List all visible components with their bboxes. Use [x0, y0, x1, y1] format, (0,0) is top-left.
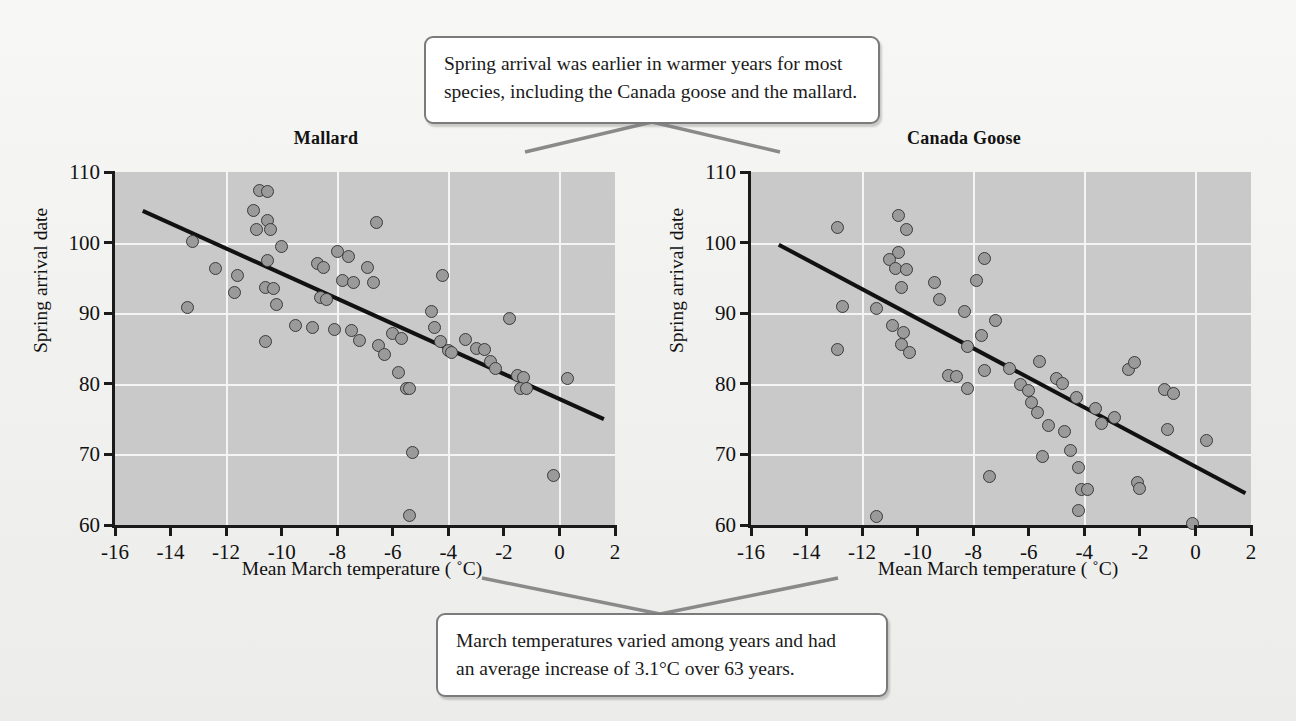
data-point — [445, 346, 458, 359]
data-point — [186, 235, 199, 248]
y-axis-tick — [740, 171, 751, 174]
data-point — [900, 263, 913, 276]
data-point — [353, 334, 366, 347]
data-point — [1042, 419, 1055, 432]
y-axis-title-mallard: Spring arrival date — [30, 208, 52, 353]
x-axis-tick-label: 2 — [610, 540, 621, 565]
callout-bottom: March temperatures varied among years an… — [436, 613, 888, 697]
data-point — [395, 332, 408, 345]
data-point — [1072, 461, 1085, 474]
trendline — [751, 172, 1251, 525]
data-point — [428, 321, 441, 334]
data-point — [478, 343, 491, 356]
x-axis-tick — [558, 525, 561, 536]
y-axis-tick — [740, 312, 751, 315]
data-point — [347, 276, 360, 289]
data-point — [520, 382, 533, 395]
data-point — [1022, 384, 1035, 397]
data-point — [342, 250, 355, 263]
data-point — [406, 446, 419, 459]
data-point — [978, 364, 991, 377]
data-point — [831, 343, 844, 356]
data-point — [978, 252, 991, 265]
x-axis-tick — [805, 525, 808, 536]
data-point — [250, 223, 263, 236]
x-axis-tick — [614, 525, 617, 536]
x-axis-tick — [861, 525, 864, 536]
data-point — [950, 370, 963, 383]
x-axis-tick-label: -6 — [384, 540, 402, 565]
data-point — [267, 282, 280, 295]
chart-title-mallard: Mallard — [76, 128, 576, 149]
x-axis-tick — [391, 525, 394, 536]
x-axis-tick-label: -8 — [964, 540, 982, 565]
data-point — [259, 335, 272, 348]
x-axis-tick — [225, 525, 228, 536]
data-point — [320, 293, 333, 306]
x-axis-tick-label: -10 — [268, 540, 296, 565]
x-axis-title-canada-goose: Mean March temperature ( ˚C) — [748, 558, 1248, 580]
data-point — [900, 223, 913, 236]
x-axis-tick — [750, 525, 753, 536]
data-point — [903, 346, 916, 359]
x-axis-tick-label: -10 — [904, 540, 932, 565]
callout-top-line2: species, including the Canada goose and … — [444, 78, 862, 106]
x-axis-tick-label: -14 — [157, 540, 185, 565]
x-axis-tick — [336, 525, 339, 536]
x-axis-tick-label: -16 — [101, 540, 129, 565]
x-axis-tick-label: 2 — [1246, 540, 1257, 565]
y-axis-tick-label: 90 — [715, 301, 736, 326]
x-axis-tick — [1138, 525, 1141, 536]
y-axis-tick — [104, 312, 115, 315]
callout-bottom-line2: an average increase of 3.1°C over 63 yea… — [456, 655, 870, 683]
data-point — [831, 221, 844, 234]
data-point — [270, 298, 283, 311]
data-point — [1167, 387, 1180, 400]
data-point — [933, 293, 946, 306]
data-point — [1128, 356, 1141, 369]
data-point — [1072, 504, 1085, 517]
x-axis-tick-label: 0 — [554, 540, 565, 565]
chart-title-canada-goose: Canada Goose — [714, 128, 1214, 149]
callout-bottom-line1: March temperatures varied among years an… — [456, 627, 870, 655]
y-axis-tick-label: 60 — [715, 513, 736, 538]
data-point — [989, 314, 1002, 327]
x-axis-tick — [447, 525, 450, 536]
x-axis-tick-label: -12 — [212, 540, 240, 565]
y-axis-tick — [104, 382, 115, 385]
data-point — [392, 366, 405, 379]
y-axis-tick — [104, 171, 115, 174]
data-point — [561, 372, 574, 385]
data-point — [1070, 391, 1083, 404]
data-point — [231, 269, 244, 282]
x-axis-tick-label: -4 — [440, 540, 458, 565]
data-point — [403, 382, 416, 395]
x-axis-tick-label: -12 — [848, 540, 876, 565]
data-point — [317, 261, 330, 274]
y-axis-tick-label: 110 — [705, 160, 736, 185]
x-axis-tick — [114, 525, 117, 536]
data-point — [870, 302, 883, 315]
y-axis-tick — [740, 382, 751, 385]
data-point — [1064, 444, 1077, 457]
plot-area-mallard: 60708090100110-16-14-12-10-8-6-4-202 — [112, 172, 615, 528]
x-axis-tick-label: 0 — [1190, 540, 1201, 565]
data-point — [328, 323, 341, 336]
data-point — [892, 209, 905, 222]
x-axis-tick — [972, 525, 975, 536]
y-axis-tick-label: 100 — [705, 230, 737, 255]
data-point — [436, 269, 449, 282]
data-point — [370, 216, 383, 229]
data-point — [289, 319, 302, 332]
y-axis-tick-label: 70 — [715, 442, 736, 467]
x-axis-tick — [916, 525, 919, 536]
figure-page: Spring arrival was earlier in warmer yea… — [0, 0, 1296, 721]
y-axis-tick — [104, 453, 115, 456]
data-point — [895, 281, 908, 294]
data-point — [261, 254, 274, 267]
x-axis-tick — [1194, 525, 1197, 536]
y-axis-tick — [740, 453, 751, 456]
x-axis-tick — [1027, 525, 1030, 536]
data-point — [459, 333, 472, 346]
data-point — [503, 312, 516, 325]
